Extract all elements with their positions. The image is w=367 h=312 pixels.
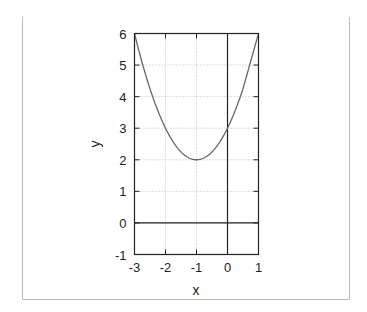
y-tick-label: 3 bbox=[119, 121, 126, 136]
grid-lines bbox=[135, 34, 259, 255]
y-tick-label: 6 bbox=[119, 27, 126, 42]
x-tick-label: -1 bbox=[191, 260, 203, 275]
chart: -3-2-101 -10123456 x y bbox=[0, 0, 367, 312]
y-tick-label: -1 bbox=[115, 248, 127, 263]
x-tick-label: 0 bbox=[224, 260, 231, 275]
y-tick-label: 5 bbox=[119, 58, 126, 73]
y-tick-label: 2 bbox=[119, 153, 126, 168]
x-axis-label: x bbox=[193, 282, 200, 298]
y-tick-labels: -10123456 bbox=[115, 27, 127, 263]
x-tick-label: -3 bbox=[129, 260, 141, 275]
y-tick-label: 4 bbox=[119, 90, 126, 105]
x-tick-labels: -3-2-101 bbox=[129, 260, 262, 275]
y-tick-label: 0 bbox=[119, 216, 126, 231]
figure-frame bbox=[23, 17, 350, 300]
x-tick-label: -2 bbox=[160, 260, 172, 275]
x-tick-label: 1 bbox=[255, 260, 262, 275]
y-axis-label: y bbox=[87, 141, 103, 148]
y-tick-label: 1 bbox=[119, 184, 126, 199]
